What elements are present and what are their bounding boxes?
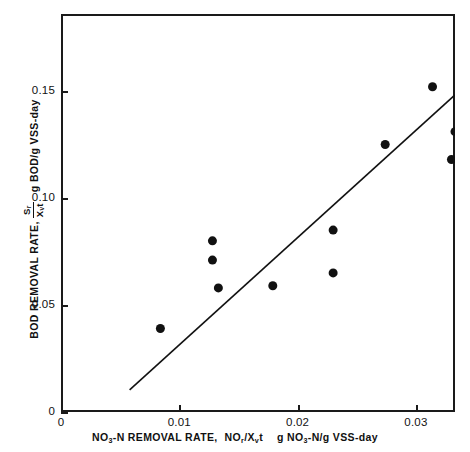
x-axis-title-ratio-slash: /X (244, 431, 255, 443)
x-axis-tick-2 (298, 405, 300, 412)
fraction-numerator-symbol: S (21, 208, 32, 215)
data-point (451, 127, 456, 136)
y-axis-tick-3 (61, 91, 68, 93)
fraction-numerator-subscript: r (25, 205, 32, 208)
x-axis-tick-label-1: 0.01 (168, 416, 191, 428)
y-axis-title-lead: BOD REMOVAL RATE, (28, 221, 40, 338)
x-axis-title-species: NO (92, 431, 108, 443)
data-point (329, 268, 338, 277)
x-axis-tick-label-3: 0.03 (404, 416, 427, 428)
data-point (208, 256, 217, 265)
scatter-plot-figure: 0 0.05 0.10 0.15 0 0.01 0.02 0.03 NO3-N … (0, 0, 470, 452)
x-axis-tick-3 (416, 405, 418, 412)
x-axis-title-units-tail: -N/g VSS-day (308, 431, 378, 443)
data-point (214, 283, 223, 292)
x-axis-title: NO3-N REMOVAL RATE,NOr/Xvtg NO3-N/g VSS-… (0, 431, 470, 445)
data-point (381, 140, 390, 149)
data-point (447, 155, 455, 164)
y-axis-tick-0 (61, 412, 68, 414)
plot-canvas (61, 14, 455, 412)
fraction-denominator-tail: t (34, 203, 45, 207)
data-point (156, 324, 165, 333)
y-axis-title-container: BOD REMOVAL RATE, Sr Xvt g BOD/g VSS-day (21, 39, 47, 399)
y-axis-tick-2 (61, 198, 68, 200)
y-axis-tick-1 (61, 305, 68, 307)
fraction-denominator-symbol: X (34, 211, 45, 218)
data-point (208, 236, 217, 245)
x-axis-tick-label-0: 0 (58, 416, 65, 428)
y-axis-title-units: g BOD/g VSS-day (28, 99, 40, 192)
x-axis-tick-1 (179, 405, 181, 412)
data-point (268, 281, 277, 290)
fraction-denominator: Xvt (34, 202, 45, 218)
x-axis-title-units-lead: g NO (277, 431, 303, 443)
data-point (428, 82, 437, 91)
regression-fit-line (130, 95, 455, 390)
y-axis-tick-label-0: 0 (48, 405, 55, 417)
fraction-numerator: Sr (22, 204, 33, 216)
y-axis-title-fraction: Sr Xvt (22, 202, 46, 218)
fraction-denominator-subscript: v (38, 207, 45, 211)
x-axis-tick-0 (61, 405, 63, 412)
x-axis-title-species-tail: -N REMOVAL RATE, (113, 431, 218, 443)
x-axis-title-ratio-tail: t (259, 431, 263, 443)
data-point (329, 226, 338, 235)
x-axis-tick-label-2: 0.02 (286, 416, 309, 428)
y-axis-title: BOD REMOVAL RATE, Sr Xvt g BOD/g VSS-day (22, 99, 46, 338)
x-axis-title-ratio-num: NO (225, 431, 241, 443)
